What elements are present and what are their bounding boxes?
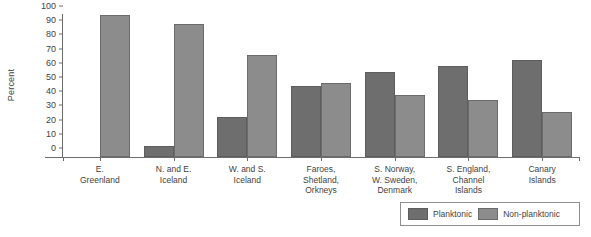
y-axis-tick: 90 xyxy=(46,16,63,25)
y-axis-tick-label: 10 xyxy=(46,129,56,138)
bar-group xyxy=(210,15,284,157)
legend-swatch-planktonic xyxy=(408,208,428,220)
x-axis-tick-mark xyxy=(174,157,175,161)
y-axis-tick-mark xyxy=(59,6,63,7)
x-axis-tick-mark xyxy=(395,157,396,161)
x-axis-tick-mark xyxy=(579,157,580,161)
y-axis-tick-label: 40 xyxy=(46,87,56,96)
bar-group-bars xyxy=(63,15,137,157)
bar-planktonic xyxy=(144,146,174,157)
bar-group-bars xyxy=(358,15,432,157)
legend-item-planktonic: Planktonic xyxy=(408,208,472,220)
bar-planktonic xyxy=(365,72,395,157)
bar-group xyxy=(505,15,579,157)
legend-item-non-planktonic: Non-planktonic xyxy=(478,208,560,220)
plot-area: 0102030405060708090100 xyxy=(63,15,579,157)
x-axis-labels: E. GreenlandN. and E. IcelandW. and S. I… xyxy=(63,164,579,196)
y-axis-tick: 10 xyxy=(46,129,63,138)
bar-non-planktonic xyxy=(321,83,351,157)
bar-planktonic xyxy=(438,66,468,157)
bar-group xyxy=(137,15,211,157)
bar-group xyxy=(358,15,432,157)
y-axis-tick-label: 100 xyxy=(41,2,56,11)
y-axis-tick-label: 60 xyxy=(46,58,56,67)
y-axis-tick: 40 xyxy=(46,87,63,96)
legend-label-planktonic: Planktonic xyxy=(433,209,472,219)
bar-planktonic xyxy=(512,60,542,157)
bar-group-bars xyxy=(137,15,211,157)
legend-swatch-non-planktonic xyxy=(478,208,498,220)
bar-non-planktonic xyxy=(542,112,572,157)
bar-chart: Percent 0102030405060708090100 E. Greenl… xyxy=(0,0,591,237)
y-axis-tick: 30 xyxy=(46,101,63,110)
bar-non-planktonic xyxy=(174,24,204,157)
bar-non-planktonic xyxy=(247,55,277,157)
y-axis-title: Percent xyxy=(0,0,22,170)
x-axis-label: N. and E. Iceland xyxy=(137,164,211,196)
bar-non-planktonic xyxy=(468,100,498,157)
x-axis-tick-mark xyxy=(247,157,248,161)
bar-planktonic xyxy=(291,86,321,157)
y-axis-tick: 20 xyxy=(46,115,63,124)
bar-group xyxy=(284,15,358,157)
bar-group xyxy=(432,15,506,157)
legend-label-non-planktonic: Non-planktonic xyxy=(503,209,560,219)
y-axis-tick: 0 xyxy=(51,144,63,153)
y-axis-tick: 80 xyxy=(46,30,63,39)
x-axis-tick-mark xyxy=(468,157,469,161)
bar-group-bars xyxy=(210,15,284,157)
x-axis-tick-mark xyxy=(321,157,322,161)
y-axis-title-label: Percent xyxy=(6,69,16,101)
y-axis-tick-label: 50 xyxy=(46,73,56,82)
y-axis-tick: 70 xyxy=(46,44,63,53)
bar-non-planktonic xyxy=(395,95,425,157)
y-axis-tick-label: 90 xyxy=(46,16,56,25)
x-axis-label: W. and S. Iceland xyxy=(210,164,284,196)
y-axis-tick: 100 xyxy=(41,2,63,11)
y-axis-tick: 60 xyxy=(46,58,63,67)
x-axis-tick-mark xyxy=(542,157,543,161)
x-axis-tick-mark xyxy=(100,157,101,161)
y-axis-tick-label: 20 xyxy=(46,115,56,124)
bar-group-bars xyxy=(432,15,506,157)
bar-non-planktonic xyxy=(100,15,130,157)
bar-group-bars xyxy=(505,15,579,157)
x-axis-label: Faroes, Shetland, Orkneys xyxy=(284,164,358,196)
bar-planktonic xyxy=(217,117,247,157)
y-axis-tick-label: 30 xyxy=(46,101,56,110)
x-axis-label: S. Norway, W. Sweden, Denmark xyxy=(358,164,432,196)
x-axis-tick-mark xyxy=(63,157,64,161)
bar-group-bars xyxy=(284,15,358,157)
bar-group xyxy=(63,15,137,157)
y-axis-tick-label: 80 xyxy=(46,30,56,39)
x-axis-line xyxy=(45,157,579,158)
y-axis-tick-label: 0 xyxy=(51,144,56,153)
y-axis-tick: 50 xyxy=(46,73,63,82)
x-axis-label: Canary Islands xyxy=(505,164,579,196)
x-axis-label: S. England, Channel Islands xyxy=(432,164,506,196)
y-axis-tick-label: 70 xyxy=(46,44,56,53)
chart-legend: Planktonic Non-planktonic xyxy=(400,202,580,226)
bar-groups xyxy=(63,15,579,157)
x-axis-label: E. Greenland xyxy=(63,164,137,196)
